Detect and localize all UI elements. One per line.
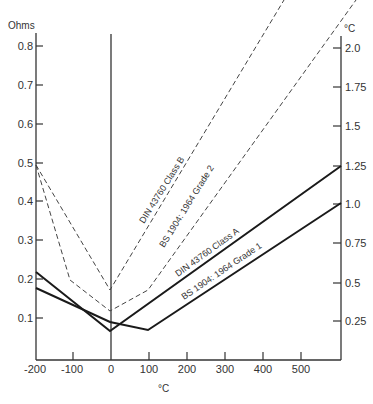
y-tick-label: 0.6 <box>18 118 33 130</box>
y-tick-label: 0.2 <box>18 273 33 285</box>
x-tick-label: 300 <box>216 363 234 375</box>
y-tick-label: 0.7 <box>18 79 33 91</box>
y-tick-label: 0.5 <box>18 157 33 169</box>
bottom-tick-labels: -200 -100 0 100 200 300 400 500 <box>24 363 310 375</box>
y2-tick-label: 1.5 <box>345 120 360 132</box>
y-tick-label: 0.1 <box>18 312 33 324</box>
y-tick-label: 0.3 <box>18 234 33 246</box>
y2-tick-label: 1.75 <box>345 81 366 93</box>
series-din-class-a <box>36 166 341 331</box>
left-tick-labels: 0.8 0.7 0.6 0.5 0.4 0.3 0.2 0.1 <box>18 40 33 324</box>
x-tick-label: -100 <box>61 363 83 375</box>
x-axis-title: °C <box>158 383 169 394</box>
y2-tick-label: 0.25 <box>345 315 366 327</box>
y-tick-label: 0.4 <box>18 195 33 207</box>
x-tick-label: 200 <box>178 363 196 375</box>
right-ticks <box>333 48 341 321</box>
y2-tick-label: 1.25 <box>345 160 366 172</box>
x-tick-label: 100 <box>140 363 158 375</box>
bottom-ticks <box>73 352 301 360</box>
label-bs-grade-1: BS 1904: 1964 Grade 1 <box>180 240 264 301</box>
y-tick-label: 0.8 <box>18 40 33 52</box>
y2-tick-label: 1.0 <box>345 198 360 210</box>
x-tick-label: 0 <box>108 363 114 375</box>
x-tick-label: 500 <box>292 363 310 375</box>
y2-tick-label: 0.5 <box>345 277 360 289</box>
y2-axis-title: °C <box>344 23 355 34</box>
y2-tick-label: 2.0 <box>345 42 360 54</box>
tolerance-chart: 0.8 0.7 0.6 0.5 0.4 0.3 0.2 0.1 Ohms 2.0… <box>0 0 373 404</box>
y2-tick-label: 0.75 <box>345 237 366 249</box>
right-tick-labels: 2.0 1.75 1.5 1.25 1.0 0.75 0.5 0.25 <box>345 42 366 327</box>
y-axis-title: Ohms <box>8 20 35 31</box>
x-tick-label: 400 <box>254 363 272 375</box>
x-tick-label: -200 <box>24 363 46 375</box>
